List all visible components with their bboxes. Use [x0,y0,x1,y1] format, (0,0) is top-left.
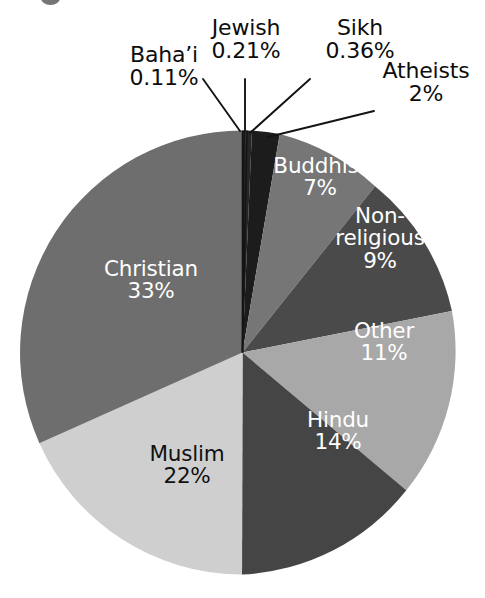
leader-lines [203,79,374,137]
pie-label-hindu-name: Hindu [288,409,388,431]
pie-label-jewish-name: Jewish [190,17,302,40]
pie-label-christian-value: 33% [91,280,211,302]
pie-label-nonreligious: Non- religious 9% [328,205,432,272]
pie-label-jewish-value: 0.21% [190,40,302,63]
leader-line-atheists [268,111,374,137]
pie-label-hindu: Hindu 14% [288,409,388,454]
pie-label-bahai-value: 0.11% [108,67,220,90]
pie-label-atheists-name: Atheists [367,60,485,83]
pie-label-atheists: Atheists 2% [367,60,485,106]
pie-label-christian: Christian 33% [91,258,211,303]
pie-label-buddhist: Buddhist 7% [260,155,380,200]
pie-label-buddhist-value: 7% [260,177,380,199]
pie-label-sikh: Sikh 0.36% [305,17,415,63]
pie-label-muslim-value: 22% [131,465,243,487]
pie-label-other: Other 11% [336,320,432,365]
pie-label-hindu-value: 14% [288,431,388,453]
pie-label-christian-name: Christian [91,258,211,280]
pie-label-muslim-name: Muslim [131,443,243,465]
pie-label-other-name: Other [336,320,432,342]
pie-label-muslim: Muslim 22% [131,443,243,488]
pie-label-nonreligious-name-line2: religious [328,227,432,249]
pie-chart-figure: Baha’i 0.11% Jewish 0.21% Sikh 0.36% Ath… [0,0,485,598]
leader-line-sikh [250,79,310,133]
pie-label-buddhist-name: Buddhist [260,155,380,177]
pie-label-nonreligious-name-line1: Non- [328,205,432,227]
pie-label-atheists-value: 2% [367,83,485,106]
pie-label-sikh-name: Sikh [305,17,415,40]
pie-label-jewish: Jewish 0.21% [190,17,302,63]
pie-label-other-value: 11% [336,342,432,364]
pie-label-nonreligious-value: 9% [328,250,432,272]
